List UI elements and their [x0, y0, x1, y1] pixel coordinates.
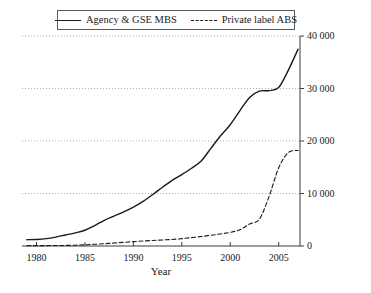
y-axis-tick-label: 0 — [307, 241, 312, 251]
data-series-layer — [27, 49, 298, 246]
gridlines — [22, 36, 300, 194]
y-axis-ticks — [300, 36, 304, 246]
x-axis-tick-label: 2000 — [220, 253, 240, 263]
legend-label-agency-gse-mbs: Agency & GSE MBS — [86, 15, 177, 26]
legend-line-dashed-icon — [191, 20, 217, 21]
legend-line-solid-icon — [55, 20, 81, 21]
chart-legend: Agency & GSE MBS Private label ABS — [57, 10, 295, 30]
y-axis-tick-label: 40 000 — [307, 31, 335, 41]
y-axis-tick-label: 10 000 — [307, 189, 335, 199]
x-axis-tick-label: 1985 — [75, 253, 95, 263]
x-axis-tick-label: 1995 — [172, 253, 192, 263]
x-axis-tick-label: 1980 — [27, 253, 47, 263]
chart-plot-area — [0, 0, 371, 293]
legend-entry-agency-gse-mbs: Agency & GSE MBS — [55, 15, 177, 26]
y-axis-tick-label: 20 000 — [307, 136, 335, 146]
legend-entry-private-label-abs: Private label ABS — [191, 15, 297, 26]
series-line-2 — [27, 150, 298, 245]
legend-label-private-label-abs: Private label ABS — [222, 15, 297, 26]
series-line-1 — [27, 49, 298, 240]
x-axis-title: Year — [151, 266, 171, 277]
y-axis-tick-label: 30 000 — [307, 84, 335, 94]
x-axis-tick-label: 2005 — [269, 253, 289, 263]
chart-figure: Agency & GSE MBS Private label ABS 010 0… — [0, 0, 371, 293]
x-axis-tick-label: 1990 — [123, 253, 143, 263]
